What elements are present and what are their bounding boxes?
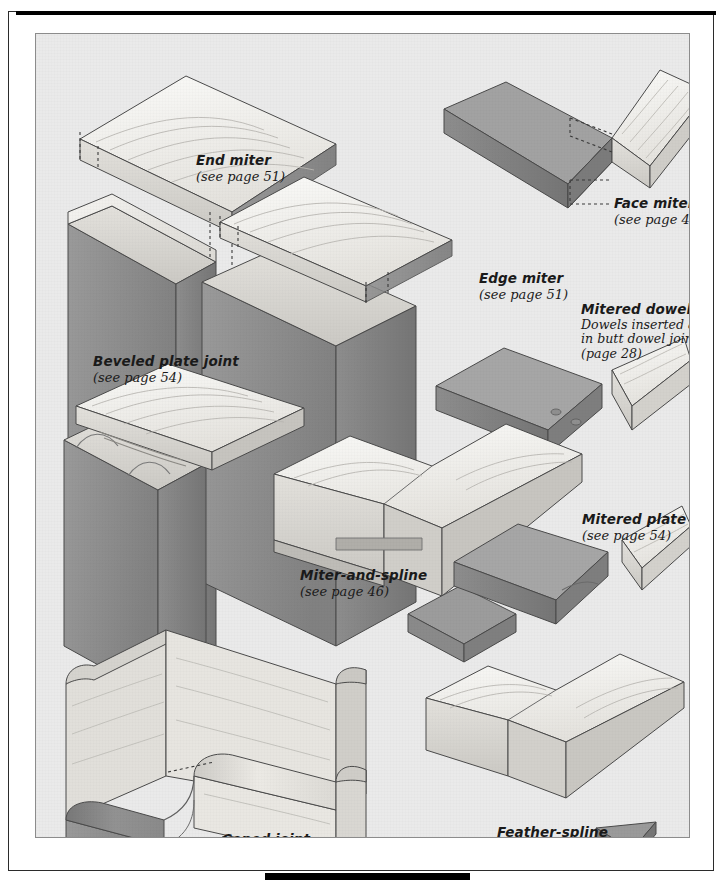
label-title: Beveled plate joint: [93, 354, 239, 370]
label-title: Edge miter: [479, 271, 568, 287]
label-subtitle-line-3: (page 28): [581, 347, 690, 362]
label-title: Miter-and-spline: [300, 568, 427, 584]
joint-illustrations-svg: [36, 34, 690, 838]
label-subtitle-line-2: in butt dowel joint: [581, 332, 690, 347]
label-face-miter: Face miter (see page 45): [614, 196, 690, 227]
coped-joint-illustration: [66, 630, 366, 838]
label-subtitle: (see page 51): [196, 169, 285, 184]
feather-spline-illustration: [426, 654, 684, 838]
label-title: Feather-spline: [497, 825, 608, 838]
printed-page: End miter (see page 51) Face miter (see …: [0, 0, 725, 893]
label-subtitle: (see page 45): [614, 212, 690, 227]
illustration-plate: End miter (see page 51) Face miter (see …: [35, 33, 690, 838]
label-coped-joint: Coped joint (see page 47): [222, 832, 311, 838]
label-subtitle-line-1: Dowels inserted as: [581, 318, 690, 333]
page-top-rule: [16, 11, 716, 15]
label-title: Coped joint: [222, 832, 311, 838]
label-subtitle: (see page 54): [582, 528, 690, 543]
label-title: End miter: [196, 153, 285, 169]
label-feather-spline: Feather-spline (see page 49): [497, 825, 608, 838]
label-title: Mitered plate joint: [582, 512, 690, 528]
label-end-miter: End miter (see page 51): [196, 153, 285, 184]
label-beveled-plate-joint: Beveled plate joint (see page 54): [93, 354, 239, 385]
label-subtitle: (see page 46): [300, 584, 427, 599]
label-edge-miter: Edge miter (see page 51): [479, 271, 568, 302]
face-miter-illustration: [444, 70, 690, 208]
label-subtitle: (see page 54): [93, 370, 239, 385]
label-subtitle: (see page 51): [479, 287, 568, 302]
label-mitered-plate-joint: Mitered plate joint (see page 54): [582, 512, 690, 543]
label-title: Face miter: [614, 196, 690, 212]
page-footer-rule: [265, 873, 470, 880]
label-mitered-dowel-joint: Mitered dowel joint Dowels inserted as i…: [581, 302, 690, 361]
label-miter-and-spline: Miter-and-spline (see page 46): [300, 568, 427, 599]
label-title: Mitered dowel joint: [581, 302, 690, 318]
